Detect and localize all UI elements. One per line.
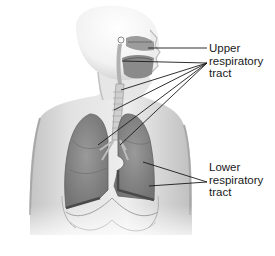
lower-label-line-3: tract — [209, 186, 263, 199]
lower-label-line-2: respiratory — [209, 174, 263, 187]
upper-label-line-3: tract — [209, 67, 263, 80]
oral-cavity — [122, 55, 154, 79]
torso — [25, 90, 200, 245]
anatomy-illustration — [0, 0, 275, 256]
respiratory-diagram: Upper respiratory tract Lower respirator… — [0, 0, 275, 256]
upper-respiratory-tract-label: Upper respiratory tract — [209, 42, 263, 80]
lower-label-line-1: Lower — [209, 161, 263, 174]
upper-label-line-2: respiratory — [209, 55, 263, 68]
lower-respiratory-tract-label: Lower respiratory tract — [209, 161, 263, 199]
upper-label-line-1: Upper — [209, 42, 263, 55]
